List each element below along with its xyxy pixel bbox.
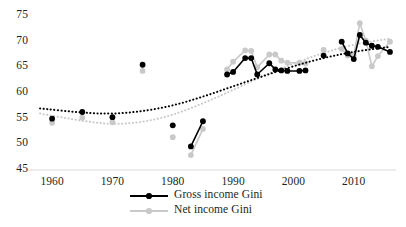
data-point bbox=[285, 60, 291, 66]
data-point bbox=[140, 68, 146, 74]
x-axis-tick-label: 1990 bbox=[209, 175, 257, 187]
data-point bbox=[200, 118, 206, 124]
data-point bbox=[369, 43, 375, 49]
data-point bbox=[339, 39, 345, 45]
x-axis-tick-label: 2010 bbox=[330, 175, 378, 187]
legend-label: Net income Gini bbox=[174, 203, 252, 215]
data-point bbox=[266, 60, 272, 66]
data-point bbox=[375, 53, 381, 59]
x-axis-tick-label: 1970 bbox=[88, 175, 136, 187]
data-point bbox=[303, 68, 309, 74]
data-point bbox=[224, 72, 230, 78]
data-point bbox=[357, 32, 363, 38]
gini-scatter-chart: 45505560657075196019701980199020002010Gr… bbox=[0, 0, 406, 227]
data-point bbox=[49, 116, 55, 122]
data-point bbox=[375, 44, 381, 50]
data-point bbox=[272, 66, 278, 72]
data-point bbox=[254, 72, 260, 78]
y-axis-tick-label: 45 bbox=[6, 162, 28, 174]
y-axis-tick-label: 70 bbox=[6, 34, 28, 46]
x-axis-tick-label: 2000 bbox=[269, 175, 317, 187]
data-point bbox=[248, 48, 254, 54]
data-point bbox=[170, 122, 176, 128]
data-point bbox=[297, 68, 303, 74]
data-point bbox=[110, 119, 116, 125]
data-point bbox=[285, 68, 291, 74]
data-point bbox=[110, 114, 116, 120]
data-point bbox=[351, 56, 357, 62]
data-point bbox=[79, 115, 85, 121]
data-point bbox=[278, 58, 284, 64]
legend-marker-icon bbox=[146, 193, 152, 199]
data-point bbox=[321, 47, 327, 53]
data-point bbox=[321, 53, 327, 59]
trend-line bbox=[40, 39, 390, 124]
data-point bbox=[140, 62, 146, 68]
data-point bbox=[345, 51, 351, 57]
legend-marker-icon bbox=[146, 208, 152, 214]
data-point bbox=[369, 63, 375, 69]
data-point bbox=[79, 109, 85, 115]
data-point bbox=[188, 143, 194, 149]
data-point bbox=[242, 47, 248, 53]
trend-line bbox=[40, 47, 390, 114]
y-axis-tick-label: 50 bbox=[6, 136, 28, 148]
y-axis-tick-label: 55 bbox=[6, 111, 28, 123]
data-point bbox=[242, 55, 248, 61]
y-axis-tick-label: 75 bbox=[6, 8, 28, 20]
data-point bbox=[387, 49, 393, 55]
data-point bbox=[272, 52, 278, 58]
data-point bbox=[230, 69, 236, 75]
y-axis-tick-label: 65 bbox=[6, 59, 28, 71]
data-point bbox=[230, 59, 236, 65]
legend-label: Gross income Gini bbox=[174, 188, 263, 200]
data-point bbox=[357, 20, 363, 26]
data-point bbox=[363, 40, 369, 46]
data-point bbox=[387, 39, 393, 45]
data-point bbox=[188, 152, 194, 158]
data-point bbox=[224, 66, 230, 72]
x-axis-tick-label: 1960 bbox=[28, 175, 76, 187]
data-point bbox=[266, 52, 272, 58]
data-point bbox=[278, 68, 284, 74]
x-axis-tick-label: 1980 bbox=[149, 175, 197, 187]
data-point bbox=[248, 55, 254, 61]
y-axis-tick-label: 60 bbox=[6, 85, 28, 97]
data-point bbox=[170, 134, 176, 140]
